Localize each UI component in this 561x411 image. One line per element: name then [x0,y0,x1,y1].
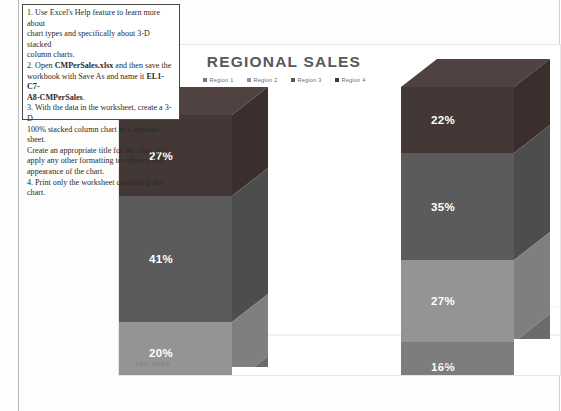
instruction-line: 3. With the data in the worksheet, creat… [27,103,175,124]
category-label-jan-june: JAN-JUNE [135,361,171,367]
segment-region-3[interactable]: 41% [119,196,232,322]
instruction-text: . [83,93,85,102]
instruction-line: column charts. [27,50,175,61]
instruction-line: Create an appropriate title for the char… [27,146,175,157]
filename-target-part2: A8-CMPerSales [27,93,83,102]
segment-region-4[interactable]: 22% [401,87,514,153]
instruction-text: workbook with Save As and name it [27,72,146,81]
instructions-callout: 1. Use Excel's Help feature to learn mor… [22,4,180,120]
scanned-page: REGIONAL SALES Region 1 Region 2 Region … [0,0,561,411]
instruction-line: 2. Open CMPerSales.xlsx and then save th… [27,61,175,72]
segment-region-3[interactable]: 35% [401,153,514,260]
instruction-text: and then save the [113,61,171,70]
segment-label: 20% [149,347,173,359]
instruction-line: A8-CMPerSales. [27,93,175,104]
segment-region-2[interactable]: 20% [119,322,232,376]
segment-label: 35% [431,201,455,213]
instruction-line: workbook with Save As and name it EL1-C7… [27,72,175,93]
filename-cmpersales: CMPerSales.xlsx [55,61,114,70]
column-july-dec[interactable]: 22% 35% 27% 16% [401,47,514,335]
instruction-line: 1. Use Excel's Help feature to learn mor… [27,8,175,29]
category-label-july-dec: JULY-DEC [417,361,452,367]
instruction-line: apply any other formatting to enhance th… [27,156,175,167]
segment-label: 27% [431,295,455,307]
segment-region-1[interactable]: 16% [401,342,514,376]
page-edge-left [18,0,19,411]
instruction-text: 2. Open [27,61,55,70]
instruction-line: 4. Print only the worksheet containing t… [27,178,175,199]
instruction-line: appearance of the chart. [27,167,175,178]
plot-area: 27% 41% 20% 12% [119,45,561,376]
segment-region-2[interactable]: 27% [401,260,514,342]
instruction-line: chart types and specifically about 3-D s… [27,29,175,50]
chart-container[interactable]: REGIONAL SALES Region 1 Region 2 Region … [118,44,561,376]
segment-label: 22% [431,114,455,126]
instruction-line: 100% stacked column chart in a separate … [27,125,175,146]
column-july-dec-front: 22% 35% 27% 16% [401,87,514,376]
segment-label: 41% [149,253,173,265]
